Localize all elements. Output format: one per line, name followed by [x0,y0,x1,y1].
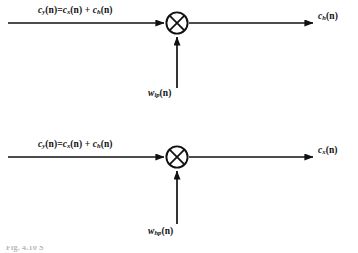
bottom-multiplier-icon [166,146,187,167]
bottom-input-n2: (n) + [70,139,92,149]
top-output-label: ch(n) [318,12,338,22]
top-input-n2: (n) + [70,5,92,15]
bottom-input-label: cy(n)=cx(n) + ch(n) [38,140,113,150]
diagram-canvas [0,0,358,253]
bottom-signal-block [8,146,313,224]
bottom-output-n: (n) [326,145,338,155]
top-input-n1: (n)= [45,5,62,15]
bottom-weight-n: (n) [161,226,173,236]
caption-text: Fig. 4.10 S [6,246,44,252]
top-multiplier-icon [166,12,187,33]
bottom-weight-label: whp(n) [148,227,173,237]
top-signal-block [8,12,313,88]
top-input-label: cy(n)=cx(n) + ch(n) [38,6,113,16]
bottom-input-n1: (n)= [45,139,62,149]
figure-root: cy(n)=cx(n) + ch(n) ch(n) wlp(n) cy(n)=c… [0,0,358,253]
top-weight-label: wlp(n) [148,89,172,99]
bottom-input-n3: (n) [101,139,113,149]
caption-clipped-strip: Fig. 4.10 S [0,246,358,253]
top-output-n: (n) [326,11,338,21]
bottom-output-label: cx(n) [318,146,338,156]
top-weight-n: (n) [160,88,172,98]
top-input-n3: (n) [101,5,113,15]
